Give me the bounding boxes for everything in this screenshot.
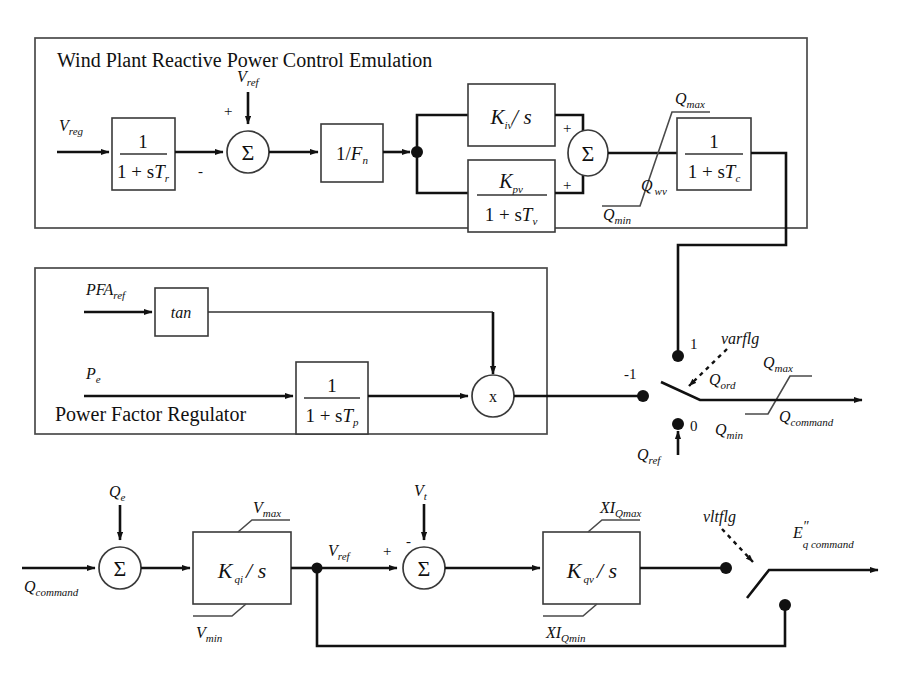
- svg-text:Qref: Qref: [637, 446, 662, 466]
- label-v-min: Vmin: [196, 624, 223, 644]
- svg-text:Vt: Vt: [414, 482, 428, 502]
- summing-junction-4-symbol: Σ: [418, 556, 431, 581]
- label-q-e: Qe: [109, 483, 126, 503]
- sign-sum1-negative: -: [198, 163, 203, 179]
- svg-text:Vref: Vref: [328, 542, 352, 562]
- label-q-max-top: Qmax: [675, 90, 705, 110]
- svg-text:Qe: Qe: [109, 483, 126, 503]
- block-tr-numerator: 1: [138, 131, 148, 152]
- block-tc-numerator: 1: [709, 131, 719, 152]
- block-kpv-denominator: 1 + sTv: [485, 204, 538, 227]
- svg-text:Vref: Vref: [237, 68, 261, 88]
- label-v-ref-bottom: Vref: [328, 542, 352, 562]
- svg-text:Qcommand: Qcommand: [24, 578, 79, 598]
- block-tp-numerator: 1: [327, 375, 337, 396]
- label-q-min-switch: Qmin: [715, 421, 744, 441]
- svg-text:XIQmin: XIQmin: [545, 624, 586, 644]
- block-diagram-page: Wind Plant Reactive Power Control Emulat…: [0, 0, 903, 687]
- block-tr-denominator: 1 + sTr: [117, 161, 170, 184]
- sign-sum4-negative: -: [406, 533, 411, 549]
- block-tp-denominator: 1 + sTp: [305, 405, 359, 428]
- label-q-max-switch: Qmax: [763, 354, 793, 374]
- label-q-min-top: Qmin: [603, 206, 632, 226]
- limiter-mark-xiqmin: [543, 604, 597, 616]
- sign-sum2-kiv: +: [563, 120, 571, 136]
- svg-text:Qmax: Qmax: [675, 90, 705, 110]
- svg-text:Qmax: Qmax: [763, 354, 793, 374]
- svg-text:Qmin: Qmin: [715, 421, 744, 441]
- label-xi-qmax: XIQmax: [599, 499, 641, 519]
- label-varflg-pos-neg1: -1: [624, 366, 637, 382]
- wire-split-to-kpv: [417, 152, 468, 193]
- block-integrator-kqv: [543, 532, 640, 604]
- svg-text:Vmin: Vmin: [196, 624, 223, 644]
- label-v-t: Vt: [414, 482, 428, 502]
- svg-text:Pe: Pe: [85, 365, 101, 385]
- summing-junction-1-symbol: Σ: [242, 140, 255, 165]
- block-tan-label: tan: [171, 304, 191, 321]
- summing-junction-2-symbol: Σ: [582, 141, 595, 166]
- summing-junction-3-symbol: Σ: [114, 556, 127, 581]
- svg-text:Vmax: Vmax: [253, 499, 281, 519]
- label-q-command-out: Qcommand: [779, 408, 834, 428]
- terminal-varflg-1: [672, 350, 684, 362]
- limiter-mark-xiqmax: [588, 520, 640, 532]
- label-q-ref: Qref: [637, 446, 662, 466]
- wire-split-to-kiv: [417, 115, 468, 152]
- label-v-ref-top: Vref: [237, 68, 261, 88]
- svg-text:Qord: Qord: [709, 371, 736, 391]
- terminal-vltflg-lower: [779, 599, 791, 611]
- label-varflg-pos-1: 1: [690, 336, 698, 352]
- label-vltflg: vltflg: [703, 508, 736, 526]
- limiter-mark-vmax: [238, 520, 290, 532]
- sign-sum4-positive: +: [383, 543, 391, 559]
- svg-text:XIQmax: XIQmax: [599, 499, 641, 519]
- label-varflg: varflg: [721, 330, 759, 348]
- label-q-ord: Qord: [709, 371, 736, 391]
- terminal-varflg-neg1: [637, 390, 649, 402]
- sign-sum2-kpv: +: [563, 177, 571, 193]
- block-tc-denominator: 1 + sTc: [688, 161, 741, 184]
- label-p-e: Pe: [85, 365, 101, 385]
- label-xi-qmin: XIQmin: [545, 624, 586, 644]
- svg-text:Vreg: Vreg: [59, 117, 84, 137]
- multiplier-symbol: x: [489, 388, 497, 405]
- control-arrow-vltflg: [722, 529, 753, 562]
- control-block-diagram: Wind Plant Reactive Power Control Emulat…: [0, 0, 903, 687]
- svg-text:Qcommand: Qcommand: [779, 408, 834, 428]
- label-pfa-ref: PFAref: [85, 281, 127, 301]
- label-v-reg: Vreg: [59, 117, 84, 137]
- svg-text:PFAref: PFAref: [85, 281, 127, 301]
- label-q-command-in: Qcommand: [24, 578, 79, 598]
- limiter-mark-vmin: [193, 604, 246, 616]
- terminal-varflg-0: [672, 418, 684, 430]
- svg-text:Qmin: Qmin: [603, 206, 632, 226]
- label-varflg-pos-0: 0: [690, 418, 698, 434]
- label-v-max: Vmax: [253, 499, 281, 519]
- group-title-power-factor: Power Factor Regulator: [55, 403, 246, 426]
- switch-blade-vltflg[interactable]: [747, 570, 815, 598]
- label-eq-command: E″q command: [792, 519, 854, 550]
- terminal-vltflg-upper: [720, 562, 732, 574]
- block-integrator-kqi: [193, 532, 291, 604]
- sign-sum1-positive: +: [224, 103, 232, 119]
- svg-text:E″q command: E″q command: [792, 519, 854, 550]
